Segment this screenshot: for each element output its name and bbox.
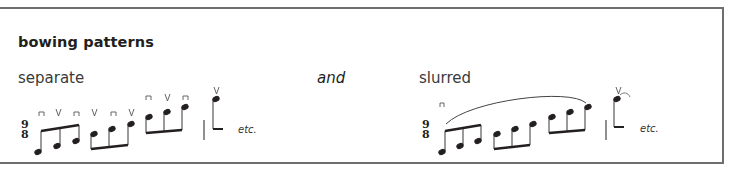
separate-notation: 9 8	[21, 87, 257, 155]
final-note	[212, 96, 223, 129]
down-bow-icon	[146, 96, 151, 100]
final-note	[613, 96, 624, 127]
down-bow-icon	[111, 112, 116, 116]
note-group-2	[493, 121, 537, 149]
etc-label: etc.	[238, 124, 257, 135]
note-group-3	[145, 104, 189, 133]
slur-arc	[446, 96, 586, 124]
note-group-2	[90, 121, 135, 149]
down-bow-icon	[39, 112, 44, 116]
up-bow-icon	[129, 109, 134, 116]
tie-arc	[620, 93, 630, 97]
etc-label: etc.	[640, 123, 659, 134]
down-bow-icon	[183, 96, 188, 100]
up-bow-icon	[214, 87, 219, 94]
up-bow-icon	[616, 87, 621, 94]
time-signature-bottom: 8	[21, 128, 29, 141]
note-group-1	[438, 125, 482, 155]
bowing-marks	[39, 87, 219, 116]
note-group-3	[548, 104, 592, 133]
up-bow-icon	[92, 109, 97, 116]
slurred-notation: 9 8	[422, 87, 659, 155]
time-signature-bottom: 8	[422, 128, 430, 141]
note-group-1	[34, 125, 80, 155]
up-bow-icon	[56, 109, 61, 116]
down-bow-icon	[440, 103, 444, 107]
up-bow-icon	[165, 94, 170, 101]
music-notation: 9 8	[0, 0, 730, 181]
down-bow-icon	[74, 112, 79, 116]
